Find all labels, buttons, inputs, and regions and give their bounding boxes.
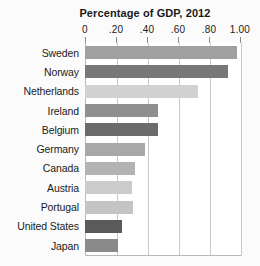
bar: [85, 143, 145, 156]
bar: [85, 239, 118, 252]
x-axis-tick-labels: 0.20.40.60.801.00: [0, 24, 260, 38]
bar-track: [85, 139, 240, 158]
x-tick-mark: [178, 37, 179, 43]
bar-category-label: Japan: [0, 240, 79, 252]
bar-track: [85, 120, 240, 139]
bar-row: Canada: [0, 159, 260, 178]
bar: [85, 104, 158, 117]
bar-track: [85, 43, 240, 62]
bar: [85, 201, 133, 214]
bar-track: [85, 178, 240, 197]
bar-row: Germany: [0, 139, 260, 158]
bar-track: [85, 236, 240, 255]
bar-category-label: Sweden: [0, 47, 79, 59]
bar-row: United States: [0, 217, 260, 236]
bar-chart: Percentage of GDP, 2012 0.20.40.60.801.0…: [0, 0, 260, 266]
x-tick-label: .60: [171, 24, 186, 35]
bar-row: Norway: [0, 62, 260, 81]
bar-track: [85, 159, 240, 178]
x-tick-label: .40: [140, 24, 155, 35]
bar-track: [85, 217, 240, 236]
chart-title: Percentage of GDP, 2012: [0, 7, 260, 19]
bar-track: [85, 82, 240, 101]
bar-category-label: Netherlands: [0, 85, 79, 97]
bar-track: [85, 62, 240, 81]
bar: [85, 220, 122, 233]
bar-category-label: United States: [0, 220, 79, 232]
x-tick-mark: [85, 37, 86, 43]
bar: [85, 162, 135, 175]
bar-category-label: Ireland: [0, 105, 79, 117]
bar-row: Belgium: [0, 120, 260, 139]
bar-category-label: Belgium: [0, 124, 79, 136]
bar-category-label: Portugal: [0, 201, 79, 213]
x-tick-mark: [116, 37, 117, 43]
bar: [85, 123, 158, 136]
x-tick-label: 0: [82, 24, 88, 35]
bar-category-label: Canada: [0, 162, 79, 174]
bar-track: [85, 197, 240, 216]
bar-row: Ireland: [0, 101, 260, 120]
bar-category-label: Norway: [0, 66, 79, 78]
bar-category-label: Austria: [0, 182, 79, 194]
x-tick-mark: [209, 37, 210, 43]
bar-row: Austria: [0, 178, 260, 197]
bar-category-label: Germany: [0, 143, 79, 155]
bar: [85, 181, 132, 194]
x-tick-label: .20: [109, 24, 124, 35]
x-axis-baseline: [85, 255, 241, 256]
bar: [85, 85, 198, 98]
x-tick-label: .80: [202, 24, 217, 35]
bar: [85, 46, 237, 59]
bar-track: [85, 101, 240, 120]
x-tick-mark: [240, 37, 241, 43]
bar-row: Netherlands: [0, 82, 260, 101]
bar-rows: SwedenNorwayNetherlandsIrelandBelgiumGer…: [0, 43, 260, 256]
x-tick-label: 1.00: [230, 24, 250, 35]
x-tick-mark: [147, 37, 148, 43]
bar-row: Sweden: [0, 43, 260, 62]
bar: [85, 65, 228, 78]
bar-row: Japan: [0, 236, 260, 255]
bar-row: Portugal: [0, 197, 260, 216]
